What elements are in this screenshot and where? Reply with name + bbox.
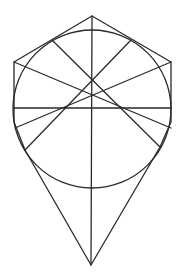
diagram-svg [0, 0, 186, 277]
vertical-axis [91, 16, 92, 265]
geometry-diagram [0, 0, 186, 277]
diag-upper-right-tangent-to-lower-left [25, 40, 131, 150]
diag-upper-left-tangent-to-lower-right [52, 40, 160, 147]
